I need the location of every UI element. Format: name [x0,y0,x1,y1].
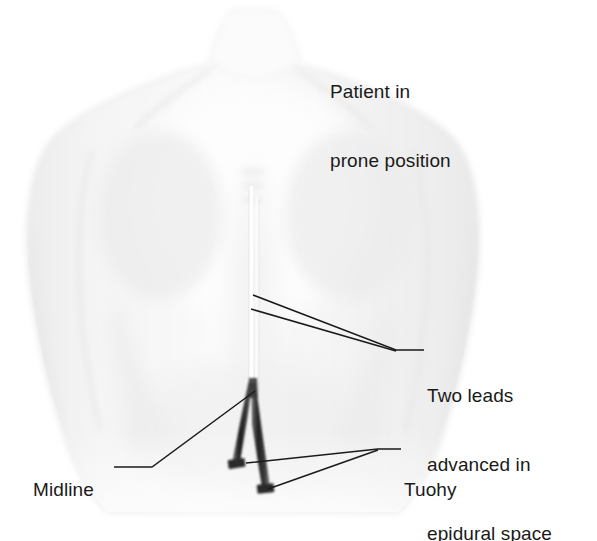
label-tuohy-line1: Tuohy [404,478,472,501]
label-two-leads-line1: Two leads [427,384,552,407]
illustration-canvas: Patient in prone position Two leads adva… [0,0,597,541]
label-tuohy-needles: Tuohy epidural needles [404,432,472,541]
label-patient-prone: Patient in prone position [330,34,451,218]
label-title-line1: Patient in [330,80,451,103]
neck-shape [210,10,300,78]
left-scapula-shading [98,131,222,299]
label-midline-incision: Midline incision [33,432,97,541]
label-midline-line1: Midline [33,478,97,501]
label-title-line2: prone position [330,149,451,172]
